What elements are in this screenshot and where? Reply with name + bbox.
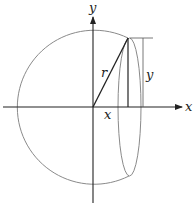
x-distance-label: x <box>104 107 112 122</box>
y-axis-label: y <box>88 0 97 15</box>
sphere-diagram: y x r y x <box>0 0 194 207</box>
y-height-label: y <box>145 67 154 82</box>
radius-label: r <box>101 65 108 80</box>
radius-line <box>93 38 128 107</box>
x-axis-label: x <box>185 99 193 114</box>
